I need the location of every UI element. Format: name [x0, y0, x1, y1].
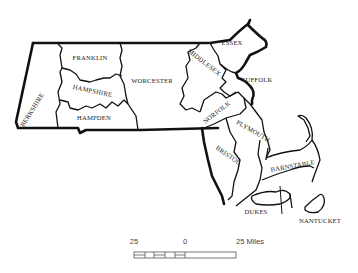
scale-label-right: 25 Miles [236, 237, 264, 246]
scale-bar: 25 0 25 Miles [130, 237, 264, 258]
massachusetts-county-map: BERKSHIRE FRANKLIN HAMPSHIRE HAMPDEN WOR… [0, 0, 358, 273]
scale-label-zero: 0 [183, 237, 187, 246]
label-worcester: WORCESTER [131, 77, 173, 84]
label-dukes: DUKES [245, 208, 268, 215]
label-plymouth: PLYMOUTH [235, 118, 271, 143]
county-boundaries [56, 43, 320, 206]
label-barnstable: BARNSTABLE [270, 158, 315, 173]
label-franklin: FRANKLIN [73, 54, 108, 61]
county-labels: BERKSHIRE FRANKLIN HAMPSHIRE HAMPDEN WOR… [19, 39, 341, 224]
label-essex: ESSEX [221, 39, 242, 46]
state-outline [16, 20, 267, 204]
label-suffolk: SUFFOLK [242, 76, 273, 83]
label-bristol: BRISTOL [215, 144, 243, 166]
label-middlesex: MIDDLESEX [187, 47, 223, 77]
label-hampden: HAMPDEN [77, 114, 111, 121]
label-hampshire: HAMPSHIRE [72, 83, 112, 98]
scale-label-left: 25 [130, 237, 138, 246]
label-nantucket: NANTUCKET [299, 217, 341, 224]
